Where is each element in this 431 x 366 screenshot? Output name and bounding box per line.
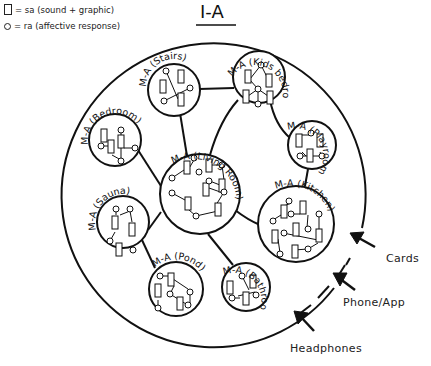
arrow-cards-icon <box>350 232 375 247</box>
input-label-phone-app: Phone/App <box>343 296 405 309</box>
arrow-phone-app-icon <box>333 273 355 290</box>
room-diagram: M-A (Stairs) M-A (Kids bedroom) M-A (Pla… <box>0 0 431 366</box>
input-label-cards: Cards <box>386 252 419 265</box>
input-label-headphones: Headphones <box>290 342 362 355</box>
arrow-headphones-icon <box>294 311 314 331</box>
